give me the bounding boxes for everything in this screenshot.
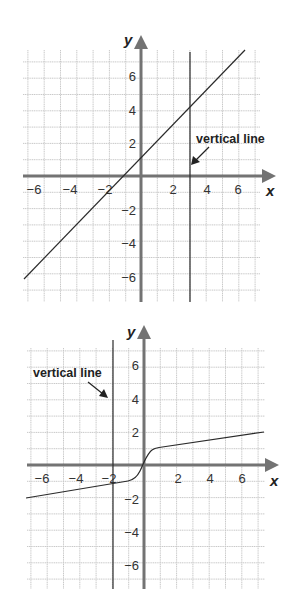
top-y-tick: −6 — [121, 270, 136, 285]
bottom-x-tick: 2 — [174, 471, 181, 486]
top-x-tick: 4 — [203, 182, 210, 197]
top-y-tick: 2 — [129, 136, 136, 151]
bottom-y-axis-arrow-icon — [137, 325, 151, 339]
bottom-y-tick: −2 — [124, 492, 139, 507]
bottom-annotation-label: vertical line — [33, 366, 102, 380]
top-x-tick: 6 — [234, 182, 241, 197]
bottom-y-tick: 4 — [132, 392, 139, 407]
bottom-chart: x y −6 −4 −2 2 4 6 6 4 2 −2 −4 −6 vertic… — [26, 323, 279, 589]
bottom-y-tick: −4 — [124, 525, 139, 540]
figure: x y −6 −4 −2 2 4 6 6 4 2 −2 −4 −6 vertic… — [0, 0, 294, 589]
top-x-tick: 2 — [169, 182, 176, 197]
bottom-y-tick: −6 — [124, 558, 139, 573]
top-x-axis-arrow-icon — [262, 169, 276, 183]
bottom-x-tick: 4 — [206, 471, 213, 486]
top-y-tick: −2 — [121, 203, 136, 218]
top-annotation-pointer — [196, 147, 209, 160]
bottom-y-tick: 6 — [132, 358, 139, 373]
top-y-tick: −4 — [121, 236, 136, 251]
top-y-tick: 4 — [129, 103, 136, 118]
top-x-tick: −6 — [27, 182, 42, 197]
top-y-axis-arrow-icon — [134, 35, 148, 49]
bottom-x-axis-arrow-icon — [265, 458, 279, 472]
bottom-x-axis-label: x — [269, 472, 279, 489]
bottom-annotation-arrow-icon — [99, 389, 108, 398]
bottom-x-tick: 6 — [238, 471, 245, 486]
top-chart: x y −6 −4 −2 2 4 6 6 4 2 −2 −4 −6 vertic… — [23, 31, 276, 302]
bottom-y-tick: 2 — [132, 425, 139, 440]
bottom-y-axis-label: y — [126, 323, 136, 340]
top-annotation-label: vertical line — [196, 132, 265, 146]
bottom-x-tick: −6 — [35, 471, 50, 486]
bottom-x-tick: −4 — [69, 471, 84, 486]
top-x-tick: −4 — [63, 182, 78, 197]
top-y-tick: 6 — [129, 69, 136, 84]
top-y-axis-label: y — [123, 31, 133, 48]
top-x-axis-label: x — [265, 182, 275, 199]
bottom-grid — [27, 348, 265, 589]
